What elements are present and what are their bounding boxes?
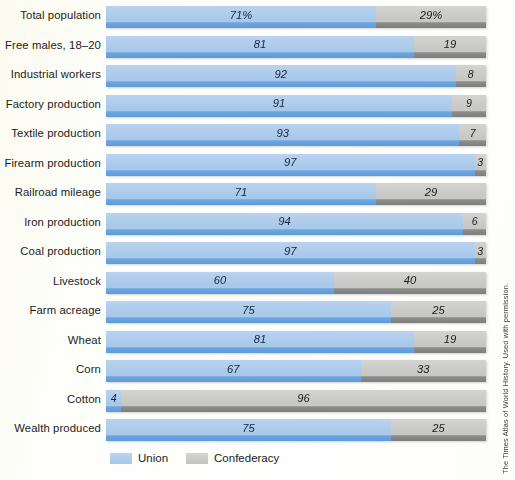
bar-segment-confederacy: 40 bbox=[334, 272, 486, 294]
row-label: Corn bbox=[0, 360, 106, 378]
chart-row: Corn6733 bbox=[0, 360, 495, 382]
row-label: Industrial workers bbox=[0, 65, 106, 83]
bar-segment-union: 81 bbox=[106, 331, 414, 353]
bar-segment-union: 75 bbox=[106, 301, 391, 323]
bar-value-union: 81 bbox=[254, 331, 266, 347]
bar-value-confederacy: 40 bbox=[404, 272, 416, 288]
row-label: Farm acreage bbox=[0, 301, 106, 319]
bar-track: 973 bbox=[106, 154, 486, 176]
bar-segment-union: 91 bbox=[106, 95, 452, 117]
bar-segment-confederacy: 25 bbox=[391, 419, 486, 441]
bar-segment-confederacy: 19 bbox=[414, 331, 486, 353]
bar-value-union: 4 bbox=[111, 390, 117, 406]
bar-segment-confederacy: 8 bbox=[456, 65, 486, 87]
bar-segment-union: 93 bbox=[106, 124, 459, 146]
bar-track: 928 bbox=[106, 65, 486, 87]
bar-value-confederacy: 96 bbox=[297, 390, 309, 406]
bar-track: 71%29% bbox=[106, 6, 486, 28]
bar-value-confederacy: 3 bbox=[477, 154, 483, 170]
row-label: Firearm production bbox=[0, 154, 106, 172]
row-label: Livestock bbox=[0, 272, 106, 290]
chart-row: Railroad mileage7129 bbox=[0, 183, 495, 205]
chart-row: Factory production919 bbox=[0, 95, 495, 117]
bar-value-confederacy: 25 bbox=[432, 302, 444, 318]
legend-swatch-union bbox=[110, 453, 132, 464]
bar-value-confederacy: 6 bbox=[472, 213, 478, 229]
bar-value-union: 75 bbox=[242, 302, 254, 318]
chart-rows: Total population71%29%Free males, 18–208… bbox=[0, 6, 495, 449]
row-label: Iron production bbox=[0, 213, 106, 231]
row-label: Factory production bbox=[0, 95, 106, 113]
chart-legend: Union Confederacy bbox=[110, 452, 279, 464]
bar-value-confederacy: 29% bbox=[420, 7, 442, 23]
chart-row: Wealth produced7525 bbox=[0, 419, 495, 441]
legend-label-confederacy: Confederacy bbox=[214, 452, 279, 464]
bar-value-union: 93 bbox=[276, 125, 288, 141]
bar-track: 8119 bbox=[106, 36, 486, 58]
bar-value-confederacy: 7 bbox=[470, 125, 476, 141]
legend-item-confederacy: Confederacy bbox=[186, 452, 279, 464]
row-label: Coal production bbox=[0, 242, 106, 260]
bar-value-confederacy: 29 bbox=[425, 184, 437, 200]
row-label: Wheat bbox=[0, 331, 106, 349]
bar-track: 6733 bbox=[106, 360, 486, 382]
bar-value-union: 97 bbox=[284, 243, 296, 259]
bar-segment-confederacy: 19 bbox=[414, 36, 486, 58]
bar-segment-confederacy: 25 bbox=[391, 301, 486, 323]
bar-segment-confederacy: 3 bbox=[475, 242, 486, 264]
bar-segment-confederacy: 3 bbox=[475, 154, 486, 176]
bar-segment-union: 71 bbox=[106, 183, 376, 205]
row-label: Total population bbox=[0, 6, 106, 24]
bar-segment-confederacy: 96 bbox=[121, 390, 486, 412]
row-label: Wealth produced bbox=[0, 419, 106, 437]
chart-row: Free males, 18–208119 bbox=[0, 36, 495, 58]
bar-value-union: 60 bbox=[214, 272, 226, 288]
bar-track: 6040 bbox=[106, 272, 486, 294]
bar-value-union: 75 bbox=[242, 420, 254, 436]
bar-value-confederacy: 19 bbox=[444, 36, 456, 52]
bar-value-union: 71 bbox=[235, 184, 247, 200]
chart-row: Textile production937 bbox=[0, 124, 495, 146]
bar-track: 8119 bbox=[106, 331, 486, 353]
bar-segment-union: 97 bbox=[106, 242, 475, 264]
row-label: Railroad mileage bbox=[0, 183, 106, 201]
legend-swatch-confederacy bbox=[186, 453, 208, 464]
row-label: Textile production bbox=[0, 124, 106, 142]
bar-segment-union: 81 bbox=[106, 36, 414, 58]
bar-segment-union: 60 bbox=[106, 272, 334, 294]
bar-segment-confederacy: 7 bbox=[459, 124, 486, 146]
bar-value-union: 71% bbox=[230, 7, 252, 23]
row-label: Free males, 18–20 bbox=[0, 36, 106, 54]
bar-segment-confederacy: 6 bbox=[463, 213, 486, 235]
legend-label-union: Union bbox=[138, 452, 168, 464]
bar-value-confederacy: 8 bbox=[468, 66, 474, 82]
bar-value-union: 94 bbox=[278, 213, 290, 229]
bar-value-union: 91 bbox=[273, 95, 285, 111]
bar-segment-union: 75 bbox=[106, 419, 391, 441]
row-label: Cotton bbox=[0, 390, 106, 408]
bar-value-union: 67 bbox=[227, 361, 239, 377]
chart-row: Wheat8119 bbox=[0, 331, 495, 353]
bar-value-confederacy: 33 bbox=[417, 361, 429, 377]
bar-value-confederacy: 25 bbox=[432, 420, 444, 436]
chart-row: Total population71%29% bbox=[0, 6, 495, 28]
bar-track: 946 bbox=[106, 213, 486, 235]
chart-row: Cotton496 bbox=[0, 390, 495, 412]
bar-segment-union: 94 bbox=[106, 213, 463, 235]
bar-track: 937 bbox=[106, 124, 486, 146]
bar-value-union: 81 bbox=[254, 36, 266, 52]
bar-track: 973 bbox=[106, 242, 486, 264]
chart-row: Farm acreage7525 bbox=[0, 301, 495, 323]
bar-segment-confederacy: 29% bbox=[376, 6, 486, 28]
bar-segment-union: 97 bbox=[106, 154, 475, 176]
chart-row: Firearm production973 bbox=[0, 154, 495, 176]
stacked-bar-chart: Total population71%29%Free males, 18–208… bbox=[0, 0, 515, 480]
chart-row: Livestock6040 bbox=[0, 272, 495, 294]
bar-segment-union: 4 bbox=[106, 390, 121, 412]
bar-segment-union: 71% bbox=[106, 6, 376, 28]
bar-value-confederacy: 9 bbox=[466, 95, 472, 111]
bar-track: 7525 bbox=[106, 301, 486, 323]
chart-row: Coal production973 bbox=[0, 242, 495, 264]
bar-track: 919 bbox=[106, 95, 486, 117]
bar-track: 7129 bbox=[106, 183, 486, 205]
